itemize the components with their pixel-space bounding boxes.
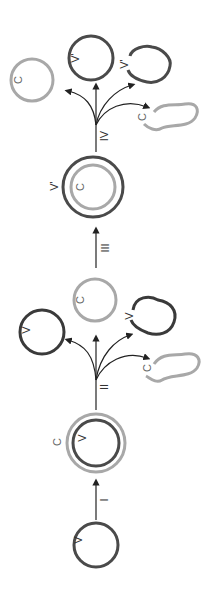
ii-c-circle: C — [74, 279, 116, 321]
step-label-I: I — [98, 498, 110, 501]
svg-text:C: C — [12, 76, 24, 84]
ii-v-circle: V — [20, 310, 64, 354]
ii-c-squiggle: C — [141, 354, 199, 382]
arrow-step-III: III — [96, 230, 111, 268]
c-enclosing-v: C V — [51, 414, 125, 472]
ii-v-blob: V — [123, 297, 175, 334]
iv-c-squiggle: C — [136, 104, 197, 130]
svg-text:V: V — [20, 326, 32, 334]
step-label-IV: IV — [98, 130, 110, 141]
svg-text:V': V' — [69, 53, 81, 62]
arrow-step-II: II — [68, 335, 147, 410]
v-prime-label: V' — [48, 181, 60, 190]
step-label-III: III — [99, 243, 111, 252]
step-label-II: II — [98, 384, 110, 390]
iv-v-prime-circle: V' — [69, 36, 113, 80]
iv-v-prime-blob: V' — [118, 46, 170, 82]
c-label: C — [74, 183, 86, 191]
svg-text:V: V — [123, 312, 135, 320]
svg-text:C: C — [141, 364, 153, 372]
v-label: V — [72, 536, 84, 544]
diagram-canvas: V I C V II V C V C III — [0, 0, 216, 599]
iv-c-circle: C — [11, 59, 53, 101]
svg-text:V': V' — [118, 59, 130, 68]
c-label: C — [51, 438, 63, 446]
arrow-step-I: I — [96, 482, 110, 520]
start-v-circle: V — [72, 523, 118, 567]
v-prime-enclosing-c: V' C — [48, 157, 123, 217]
v-label: V — [76, 434, 88, 442]
svg-text:C: C — [74, 296, 86, 304]
svg-text:C: C — [136, 113, 148, 121]
